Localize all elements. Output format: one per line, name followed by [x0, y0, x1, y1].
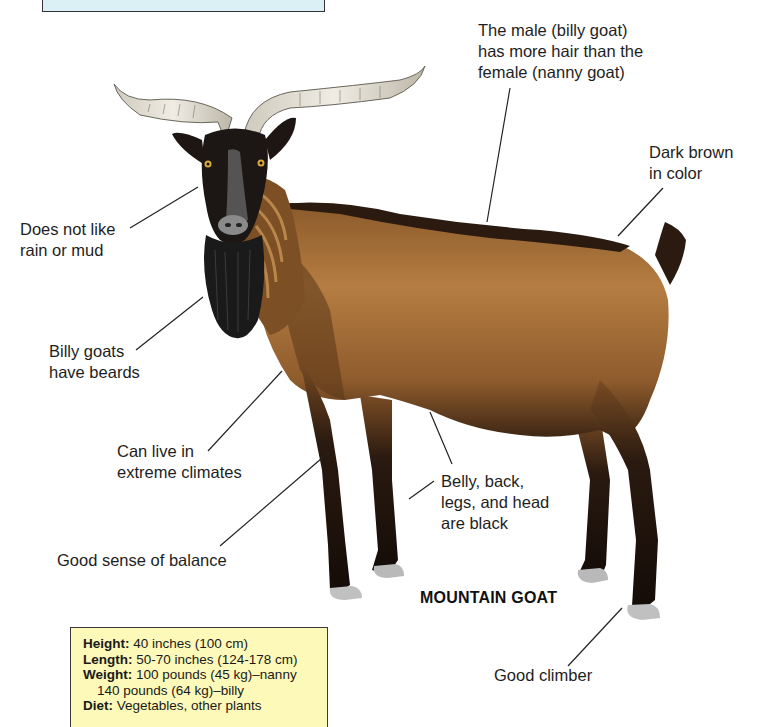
fact-length-value: 50-70 inches (124-178 cm) — [136, 652, 297, 667]
fact-weight-key: Weight: — [83, 667, 132, 682]
fact-height: Height: 40 inches (100 cm) — [83, 636, 327, 652]
fact-weight: Weight: 100 pounds (45 kg)–nanny — [83, 667, 327, 683]
annotation-male-hair: The male (billy goat) has more hair than… — [478, 20, 643, 83]
fact-length-key: Length: — [83, 652, 133, 667]
annotation-balance: Good sense of balance — [57, 550, 227, 571]
fact-diet: Diet: Vegetables, other plants — [83, 698, 327, 714]
annotation-beards: Billy goats have beards — [49, 341, 140, 383]
annotation-rain-mud: Does not like rain or mud — [20, 219, 115, 261]
facts-box: Height: 40 inches (100 cm) Length: 50-70… — [70, 627, 328, 727]
fact-length: Length: 50-70 inches (124-178 cm) — [83, 652, 327, 668]
annotation-climber: Good climber — [494, 665, 592, 686]
fact-diet-value: Vegetables, other plants — [117, 698, 262, 713]
annotation-climates: Can live in extreme climates — [117, 441, 242, 483]
fact-weight-billy: 140 pounds (64 kg)–billy — [83, 683, 327, 699]
goat-beard — [204, 235, 264, 338]
fact-weight-value: 100 pounds (45 kg)–nanny — [136, 667, 297, 682]
right-horn — [244, 66, 425, 140]
diagram-title: MOUNTAIN GOAT — [420, 589, 557, 607]
fact-diet-key: Diet: — [83, 698, 113, 713]
annotation-dark-brown: Dark brown in color — [649, 142, 733, 184]
fact-height-key: Height: — [83, 636, 130, 651]
fact-height-value: 40 inches (100 cm) — [133, 636, 248, 651]
annotation-black-parts: Belly, back, legs, and head are black — [441, 471, 549, 534]
